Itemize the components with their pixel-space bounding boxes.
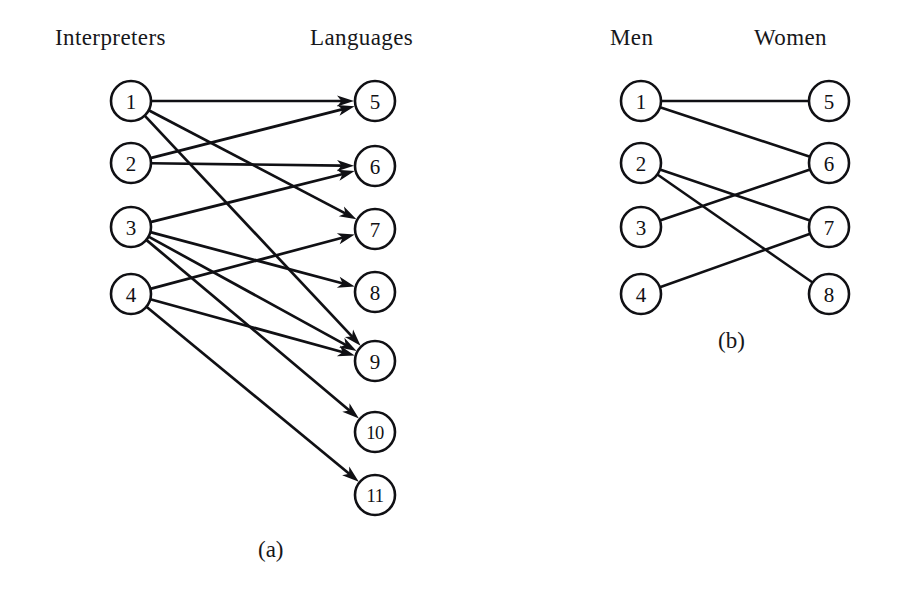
graph-edge <box>150 170 354 222</box>
graph-node[interactable]: 10 <box>355 412 395 452</box>
edge-shaft <box>149 237 347 345</box>
graph-edge <box>660 234 810 288</box>
node-label: 7 <box>824 216 835 240</box>
graph-edge <box>657 174 812 282</box>
graph-node[interactable]: 5 <box>809 81 849 121</box>
edge-shaft <box>145 116 353 337</box>
graph-edge <box>146 307 358 482</box>
graph-edge <box>151 95 354 106</box>
node-label: 11 <box>367 486 384 506</box>
edge-shaft <box>657 174 812 282</box>
graph-edge <box>150 105 354 158</box>
node-label: 3 <box>636 216 647 240</box>
graph-node[interactable]: 5 <box>355 81 395 121</box>
graph-node[interactable]: 4 <box>621 274 661 314</box>
node-label: 9 <box>370 350 381 374</box>
node-label: 8 <box>824 283 835 307</box>
node-label: 4 <box>636 283 647 307</box>
nodes-layer: 123456789101112345678 <box>111 81 849 515</box>
text-layer: InterpretersLanguages(a)MenWomen(b) <box>55 25 827 562</box>
edge-shaft <box>150 109 343 158</box>
panel-caption: (a) <box>258 537 284 562</box>
bipartite-graph-figure: 123456789101112345678 InterpretersLangua… <box>0 0 918 610</box>
graph-node[interactable]: 4 <box>111 274 151 314</box>
node-label: 4 <box>126 283 137 307</box>
graph-node[interactable]: 1 <box>111 81 151 121</box>
node-label: 10 <box>366 423 384 443</box>
graph-node[interactable]: 7 <box>809 207 849 247</box>
node-label: 2 <box>636 152 647 176</box>
graph-node[interactable]: 3 <box>111 207 151 247</box>
edge-shaft <box>151 163 342 165</box>
graph-node[interactable]: 6 <box>355 146 395 186</box>
node-label: 6 <box>824 152 835 176</box>
panel-caption: (b) <box>718 328 745 353</box>
graph-node[interactable]: 2 <box>111 143 151 183</box>
column-heading: Women <box>754 25 827 50</box>
edge-shaft <box>150 232 343 283</box>
node-label: 7 <box>370 218 381 242</box>
node-label: 5 <box>370 90 381 114</box>
node-label: 5 <box>824 90 835 114</box>
edge-shaft <box>660 107 810 156</box>
graph-node[interactable]: 7 <box>355 209 395 249</box>
node-label: 2 <box>126 152 137 176</box>
node-label: 1 <box>636 90 647 114</box>
edge-shaft <box>150 237 343 288</box>
graph-node[interactable]: 8 <box>355 272 395 312</box>
node-label: 8 <box>370 281 381 305</box>
edges-layer <box>145 95 813 481</box>
graph-node[interactable]: 9 <box>355 341 395 381</box>
edge-shaft <box>150 299 343 352</box>
edge-shaft <box>660 234 810 288</box>
graph-node[interactable]: 1 <box>621 81 661 121</box>
column-heading: Languages <box>310 25 413 50</box>
column-heading: Interpreters <box>55 25 166 50</box>
figure-root: 123456789101112345678 InterpretersLangua… <box>0 0 918 610</box>
column-heading: Men <box>610 25 653 50</box>
graph-edge <box>660 107 810 156</box>
graph-node[interactable]: 6 <box>809 143 849 183</box>
node-label: 6 <box>370 155 381 179</box>
graph-node[interactable]: 11 <box>355 475 395 515</box>
graph-edge <box>146 240 359 419</box>
graph-edge <box>151 160 354 171</box>
graph-node[interactable]: 2 <box>621 143 661 183</box>
graph-node[interactable]: 3 <box>621 207 661 247</box>
graph-node[interactable]: 8 <box>809 274 849 314</box>
node-label: 3 <box>126 216 137 240</box>
node-label: 1 <box>126 90 137 114</box>
